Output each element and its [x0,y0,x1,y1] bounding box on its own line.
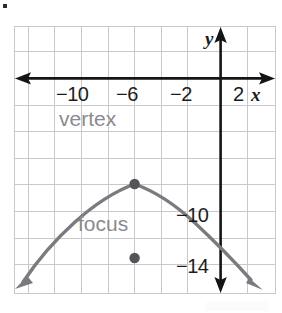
x-tick-label-2: 2 [233,84,244,104]
parabola-curve [15,184,263,290]
y-axis-name: y [205,29,213,48]
graph-svg [15,27,275,293]
grid-lines [15,27,275,293]
focus-point [129,253,139,263]
figure-parabola-graph: −10 −6 −2 2 x y −10 −14 vertex focus [0,0,282,313]
square-bullet-icon [3,4,7,8]
vertex-label: vertex [59,108,116,129]
y-tick-label-minus-10: −10 [176,205,208,225]
y-tick-label-minus-14: −14 [176,256,208,276]
vertex-point [129,179,139,189]
coordinate-plane: −10 −6 −2 2 x y −10 −14 vertex focus [14,26,276,294]
x-tick-label-minus-6: −6 [116,84,138,104]
x-tick-label-minus-2: −2 [170,84,192,104]
focus-label: focus [78,213,128,234]
x-axis-name: x [251,85,261,104]
page-edge-artifact [206,302,268,311]
x-tick-label-minus-10: −10 [56,84,88,104]
